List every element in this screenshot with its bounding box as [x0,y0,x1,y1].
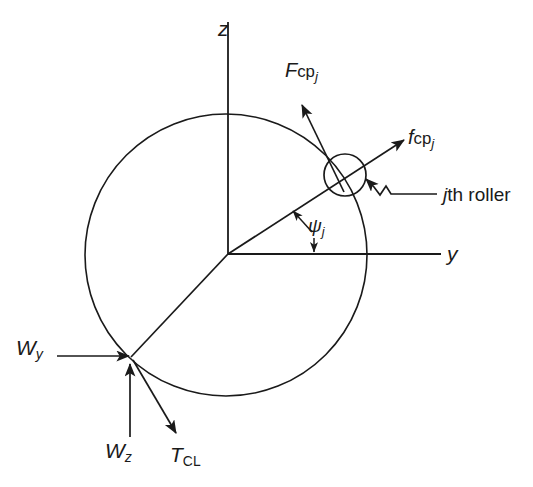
z-axis-label: z [218,18,229,39]
Fcpj-label: Fcpj [285,60,318,83]
fcpj-label: fcpj [408,127,434,150]
lower-radial-line [131,254,228,357]
bearing-load-diagram: z y Fcpj fcpj ψj jth roller Wy Wz TCL [0,0,533,487]
roller-leader-line [366,179,437,195]
Fcpj-vector [302,105,344,192]
jth-roller-label: jth roller [443,185,511,204]
jth-roller-circle [324,154,366,196]
Wy-label: Wy [16,337,43,361]
y-axis-label: y [447,243,458,264]
TCL-vector [133,360,176,433]
TCL-label: TCL [170,444,201,468]
Wz-label: Wz [105,440,132,464]
psi-angle-label: ψj [308,216,325,239]
